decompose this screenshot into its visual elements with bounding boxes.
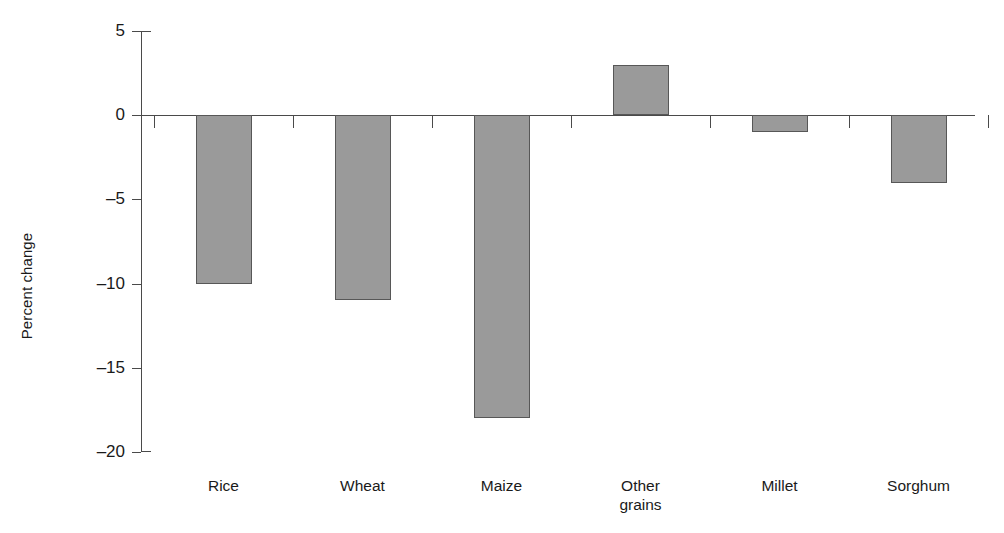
plot-area [141, 31, 975, 452]
bar-wheat [335, 115, 391, 300]
x-tick-origin [154, 115, 155, 128]
x-axis-label-other-grains: Othergrains [566, 476, 716, 514]
bar-millet [752, 115, 808, 132]
bar-chart: Percent change 50–5–10–15–20 RiceWheatMa… [0, 0, 1004, 533]
x-label-line: Wheat [288, 476, 438, 495]
bar-maize [474, 115, 530, 418]
x-axis-label-sorghum: Sorghum [844, 476, 994, 495]
x-axis-label-rice: Rice [149, 476, 299, 495]
x-tick-1 [432, 115, 433, 128]
y-tick-0 [132, 31, 141, 32]
x-axis-label-wheat: Wheat [288, 476, 438, 495]
x-label-line: Maize [427, 476, 577, 495]
x-label-line: Other [566, 476, 716, 495]
y-tick-1 [132, 115, 141, 116]
y-axis-line [141, 31, 142, 452]
y-tick-4 [132, 368, 141, 369]
x-axis-label-maize: Maize [427, 476, 577, 495]
bar-rice [196, 115, 252, 283]
y-tick-5 [132, 452, 141, 453]
bar-other-grains [613, 65, 669, 116]
x-axis-label-millet: Millet [705, 476, 855, 495]
y-tick-label-2: –5 [65, 190, 125, 207]
x-tick-0 [293, 115, 294, 128]
x-tick-5 [988, 115, 989, 128]
x-label-line: grains [566, 495, 716, 514]
y-axis-tick-labels: 50–5–10–15–20 [55, 0, 125, 533]
y-axis-bottom-cap [142, 451, 151, 452]
bar-sorghum [891, 115, 947, 182]
x-label-line: Rice [149, 476, 299, 495]
x-tick-4 [849, 115, 850, 128]
x-tick-2 [571, 115, 572, 128]
x-axis-category-labels: RiceWheatMaizeOthergrainsMilletSorghum [141, 476, 975, 533]
y-tick-label-5: –20 [65, 443, 125, 460]
y-tick-3 [132, 284, 141, 285]
y-axis-label: Percent change [18, 116, 35, 456]
y-tick-label-1: 0 [65, 106, 125, 123]
x-label-line: Millet [705, 476, 855, 495]
x-label-line: Sorghum [844, 476, 994, 495]
y-tick-2 [132, 199, 141, 200]
y-tick-label-0: 5 [65, 22, 125, 39]
x-tick-3 [710, 115, 711, 128]
y-tick-label-3: –10 [65, 275, 125, 292]
y-axis-top-cap [142, 31, 151, 32]
y-tick-label-4: –15 [65, 359, 125, 376]
